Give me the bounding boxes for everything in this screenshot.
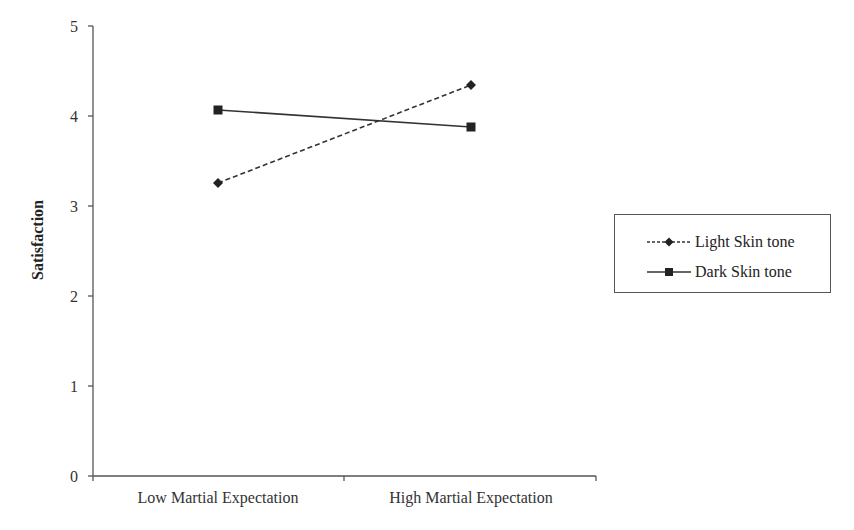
y-tick-label: 0 [70, 468, 78, 485]
y-tick-label: 1 [70, 378, 78, 395]
y-tick-label: 3 [70, 198, 78, 215]
diamond-marker [466, 80, 476, 90]
legend-item-light-skin-tone: Light Skin tone [647, 233, 795, 251]
square-marker [467, 123, 476, 132]
legend-label: Light Skin tone [695, 233, 795, 251]
y-tick-labels: 5 4 3 2 1 0 [70, 18, 78, 485]
series-light-skin-tone [213, 80, 476, 188]
square-marker [214, 106, 223, 115]
x-ticks [93, 476, 596, 481]
dashed-diamond-line-icon [647, 236, 691, 248]
legend: Light Skin tone Dark Skin tone [614, 214, 831, 293]
y-ticks [88, 26, 93, 476]
series-dark-skin-tone [214, 106, 476, 132]
solid-square-line-icon [647, 266, 691, 278]
y-axis-label: Satisfaction [29, 200, 47, 280]
legend-item-dark-skin-tone: Dark Skin tone [647, 263, 792, 281]
y-tick-label: 4 [70, 108, 78, 125]
y-tick-label: 5 [70, 18, 78, 35]
diamond-marker [213, 178, 223, 188]
x-tick-label-high: High Martial Expectation [389, 489, 553, 507]
y-tick-label: 2 [70, 288, 78, 305]
x-tick-label-low: Low Martial Expectation [138, 489, 299, 507]
legend-label: Dark Skin tone [695, 263, 792, 281]
x-tick-labels: Low Martial Expectation High Martial Exp… [138, 489, 553, 507]
